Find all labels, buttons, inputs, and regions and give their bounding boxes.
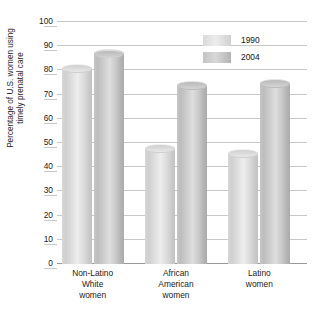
legend-swatch-1990-icon: [203, 35, 231, 46]
x-axis-category-label: Non-Latino White women: [48, 268, 138, 302]
y-axis-tick-label: 50: [29, 138, 53, 146]
y-axis-tick-label: 30: [29, 186, 53, 194]
gridline: [57, 21, 307, 22]
x-axis-category-label: African American women: [131, 268, 221, 302]
y-axis-tick-mark: [44, 171, 57, 172]
y-axis-tick-mark: [44, 99, 57, 100]
y-axis-tick-mark: [44, 195, 57, 196]
y-axis-tick-label: 80: [29, 65, 53, 73]
bar-1990-group-1: [62, 68, 92, 264]
y-axis-tick-label: 70: [29, 90, 53, 98]
bar-2004-group-2: [177, 85, 207, 264]
legend: 1990 2004: [203, 32, 298, 66]
y-axis-tick-mark: [44, 147, 57, 148]
legend-swatch-2004-icon: [203, 52, 231, 63]
bar-cylinder-top-inner: [95, 51, 123, 58]
y-axis-title: Percentage of U.S. women using timely pr…: [0, 0, 32, 188]
bar-2004-group-1: [94, 53, 124, 264]
y-axis-tick-mark: [44, 123, 57, 124]
y-axis-tick-label: 90: [29, 41, 53, 49]
y-axis-tick-label: 0: [29, 259, 53, 267]
y-axis-tick-mark: [44, 74, 57, 75]
y-axis-tick-label: 10: [29, 235, 53, 243]
y-axis-tick-mark: [44, 26, 57, 27]
bar-1990-group-2: [145, 148, 175, 264]
x-axis-category-label: Latino women: [214, 268, 304, 290]
legend-label-2004: 2004: [241, 53, 260, 62]
y-axis-tick-label: 20: [29, 211, 53, 219]
y-axis-tick-mark: [44, 50, 57, 51]
bar-2004-group-3: [260, 83, 290, 265]
y-axis-tick-label: 100: [29, 17, 53, 25]
y-axis-tick-label: 40: [29, 162, 53, 170]
legend-item-2004: 2004: [203, 49, 298, 66]
y-axis-tick-label: 60: [29, 114, 53, 122]
legend-label-1990: 1990: [241, 36, 260, 45]
bar-chart: Percentage of U.S. women using timely pr…: [0, 0, 315, 315]
y-axis-tick-mark: [44, 244, 57, 245]
legend-item-1990: 1990: [203, 32, 298, 49]
y-axis-tick-mark: [44, 220, 57, 221]
bar-1990-group-3: [228, 153, 258, 264]
